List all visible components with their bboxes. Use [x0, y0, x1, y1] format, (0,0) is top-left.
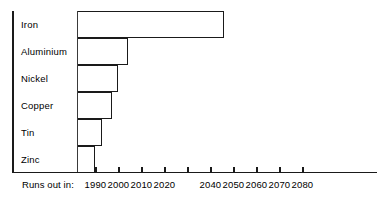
bar-row-label: Iron	[21, 11, 38, 38]
x-axis-line	[12, 172, 377, 174]
bar	[77, 119, 102, 146]
resource-depletion-bar-chart: IronAluminiumNickelCopperTinZinc Runs ou…	[0, 0, 390, 201]
x-axis-caption-label: Runs out in:	[22, 177, 74, 193]
bar-row-label: Zinc	[21, 146, 40, 173]
chart-left-border	[12, 11, 14, 173]
bar	[77, 65, 118, 92]
bar-row-label: Tin	[21, 119, 34, 146]
plot-area: IronAluminiumNickelCopperTinZinc	[12, 11, 377, 173]
bar	[77, 11, 224, 38]
x-axis-tick-label: 2020	[150, 177, 178, 193]
bar-row-label: Nickel	[21, 65, 48, 92]
bar	[77, 92, 112, 119]
label-column-divider	[77, 11, 78, 173]
bar-row-label: Copper	[21, 92, 53, 119]
axis-caption-row: Runs out in: 199020002010202020402050206…	[0, 177, 390, 193]
bar-row-label: Aluminium	[21, 38, 67, 65]
bar	[77, 146, 95, 173]
bar	[77, 38, 128, 65]
x-axis-tick-label: 2080	[288, 177, 316, 193]
